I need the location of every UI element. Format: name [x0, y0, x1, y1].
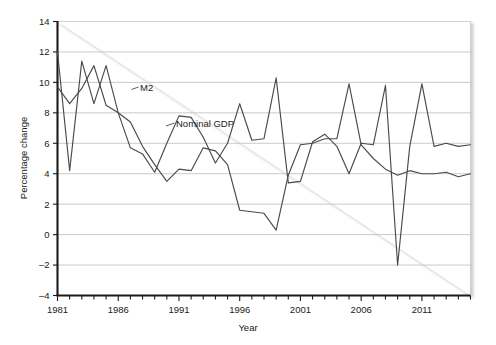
x-tick-label-2006: 2006 [351, 304, 372, 315]
x-tick-label-1981: 1981 [47, 304, 68, 315]
y-tick-label--4: –4 [39, 290, 50, 301]
y-tick-label-8: 8 [44, 107, 49, 118]
y-tick-label-10: 10 [39, 77, 50, 88]
y-tick-label-6: 6 [44, 138, 49, 149]
x-tick-label-2011: 2011 [412, 304, 432, 315]
x-axis-title: Year [238, 322, 257, 333]
y-tick-label-0: 0 [44, 229, 49, 240]
y-tick-label-12: 12 [39, 46, 50, 57]
x-tick-label-2001: 2001 [290, 304, 311, 315]
x-tick-label-1986: 1986 [108, 304, 129, 315]
y-tick-label-2: 2 [44, 199, 49, 210]
line-chart: –4–202468101214 198119861991199620012006… [0, 0, 496, 345]
series-label-m2: M2 [140, 82, 153, 93]
x-tick-label-1991: 1991 [168, 304, 189, 315]
y-axis-title: Percentage change [18, 117, 29, 199]
y-tick-label-4: 4 [44, 168, 49, 179]
series-label-nominal-gdp: Nominal GDP [176, 118, 234, 129]
y-tick-label-14: 14 [39, 16, 50, 27]
x-tick-label-1996: 1996 [229, 304, 250, 315]
chart-figure: –4–202468101214 198119861991199620012006… [0, 0, 496, 345]
y-tick-label--2: –2 [39, 259, 50, 270]
